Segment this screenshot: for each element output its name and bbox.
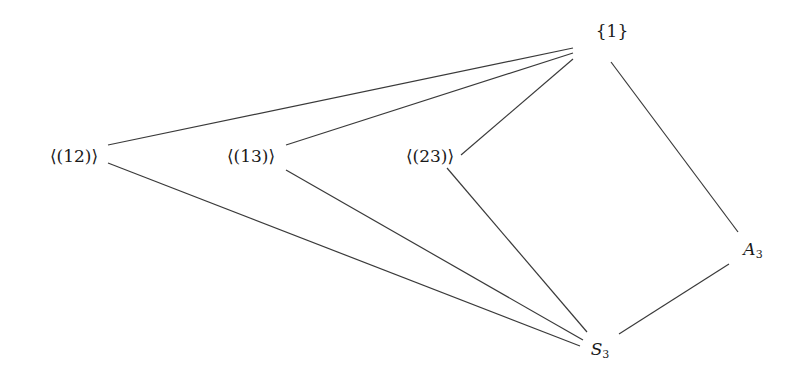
node-subgroup-12: ⟨(12)⟩ — [50, 148, 98, 165]
node-a3-sub: 3 — [756, 248, 763, 261]
edge-c23-trivial — [461, 59, 573, 155]
subgroup-lattice-diagram: {1} ⟨(12)⟩ ⟨(13)⟩ ⟨(23)⟩ A3 S3 — [0, 0, 798, 379]
node-trivial-label: {1} — [596, 21, 628, 41]
edge-s3-a3 — [619, 264, 729, 334]
lattice-edges — [0, 0, 798, 379]
node-a3-main: A — [743, 239, 755, 259]
node-trivial-subgroup: {1} — [596, 23, 628, 40]
edge-c12-trivial — [108, 48, 573, 145]
node-s3-sub: 3 — [602, 348, 609, 361]
node-12-label: ⟨(12)⟩ — [50, 146, 98, 166]
node-subgroup-23: ⟨(23)⟩ — [406, 148, 454, 165]
edge-a3-trivial — [611, 62, 738, 232]
edge-c23-s3 — [447, 168, 587, 332]
node-subgroup-13: ⟨(13)⟩ — [227, 148, 275, 165]
edge-c12-s3 — [108, 163, 580, 346]
node-13-label: ⟨(13)⟩ — [227, 146, 275, 166]
node-23-label: ⟨(23)⟩ — [406, 146, 454, 166]
node-s3-main: S — [591, 339, 603, 359]
edge-c13-s3 — [286, 170, 583, 340]
node-alternating-group-a3: A3 — [743, 241, 762, 260]
node-symmetric-group-s3: S3 — [591, 341, 610, 360]
